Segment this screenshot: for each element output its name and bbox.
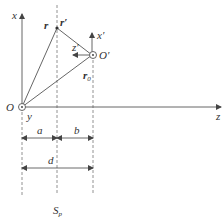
label-r0-sub: 0 (87, 75, 91, 83)
label-b: b (74, 124, 80, 136)
label-r: r (44, 19, 49, 31)
label-r0: r0 (83, 69, 91, 83)
o-prime-dot (92, 54, 94, 56)
label-x: x (11, 9, 17, 21)
label-r-prime: r′ (60, 16, 67, 28)
vector-r (22, 28, 57, 107)
label-plane-sp: Sp (53, 204, 63, 218)
coordinate-diagram: x z y O O′ x′ z′ r r′ r0 a b d Sp (0, 0, 223, 220)
point-r (55, 26, 58, 29)
label-x-prime: x′ (96, 29, 105, 41)
label-origin: O (6, 101, 14, 113)
label-y: y (26, 110, 32, 122)
label-a: a (37, 124, 43, 136)
label-z-prime: z′ (71, 41, 79, 53)
label-o-prime: O′ (99, 49, 110, 61)
label-d: d (48, 154, 54, 166)
origin-dot (21, 106, 23, 108)
label-plane-sub: p (58, 210, 63, 218)
label-z: z (215, 110, 221, 122)
